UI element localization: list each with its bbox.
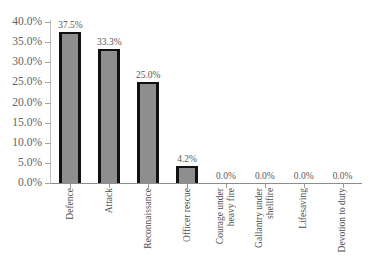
x-axis-category-label: Lifesaving: [298, 188, 309, 229]
bar: [176, 166, 198, 183]
x-axis-category-label-line: Devotion to duty: [337, 188, 348, 252]
x-axis-category-label: Defence: [65, 188, 76, 220]
x-axis-category-label-line: Reconnaissance: [143, 188, 154, 249]
y-axis-tick-label: 35.0%: [12, 36, 42, 48]
bar-value-label: 33.3%: [85, 37, 133, 47]
x-axis-category-label: Attack: [104, 188, 115, 213]
bar: [98, 49, 120, 183]
x-axis-category-label: Gallantry undershellfire: [254, 188, 276, 248]
x-axis-category-label-line: Officer rescue: [182, 188, 193, 242]
bar-value-label: 37.5%: [46, 20, 94, 30]
x-axis-category-label-line: Attack: [104, 188, 115, 213]
y-axis-tick-label: 30.0%: [12, 56, 42, 68]
bar: [137, 82, 159, 183]
x-axis-category-label-line: heavy fire: [225, 188, 236, 244]
x-axis-category-label: Reconnaissance: [143, 188, 154, 249]
y-axis-tick-label: 5.0%: [18, 157, 42, 169]
y-axis-tick: [45, 183, 51, 184]
bar-value-label: 4.2%: [163, 154, 211, 164]
x-axis-category-label: Courage underheavy fire: [215, 188, 237, 244]
y-axis-tick-label: 25.0%: [12, 76, 42, 88]
x-axis-category-label: Officer rescue: [182, 188, 193, 242]
bar-chart: 0.0%5.0%10.0%15.0%20.0%25.0%30.0%35.0%40…: [0, 0, 374, 277]
x-axis-line: [50, 183, 362, 184]
x-axis-category-label-line: shellfire: [264, 188, 275, 248]
x-axis-category-label: Devotion to duty: [337, 188, 348, 252]
y-axis-tick-label: 0.0%: [18, 177, 42, 189]
y-axis-tick-label: 10.0%: [12, 137, 42, 149]
bar: [59, 32, 81, 183]
y-axis-tick-label: 15.0%: [12, 117, 42, 129]
bar-value-label: 0.0%: [319, 171, 367, 181]
x-axis-category-label-line: Defence: [65, 188, 76, 220]
y-axis-tick-label: 40.0%: [12, 16, 42, 28]
bar-value-label: 25.0%: [124, 70, 172, 80]
x-axis-category-label-line: Courage under: [215, 188, 226, 244]
x-axis-category-label-line: Gallantry under: [254, 188, 265, 248]
x-axis-category-label-line: Lifesaving: [298, 188, 309, 229]
y-axis-tick-label: 20.0%: [12, 97, 42, 109]
